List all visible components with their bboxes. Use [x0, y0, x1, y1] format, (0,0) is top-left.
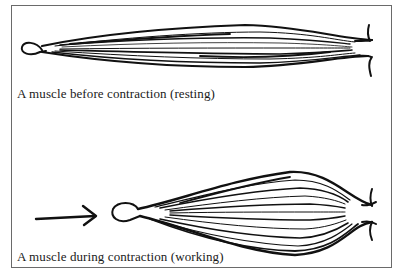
muscle-diagram: [0, 0, 401, 278]
working-muscle-illustration: [112, 172, 376, 255]
resting-muscle-illustration: [22, 25, 372, 76]
right-arrow-icon: [36, 206, 96, 225]
caption-resting: A muscle before contraction (resting): [17, 86, 215, 102]
right-tendon-bottom: [355, 56, 372, 76]
caption-working: A muscle during contraction (working): [17, 249, 224, 265]
left-tendon-loop: [112, 203, 140, 221]
